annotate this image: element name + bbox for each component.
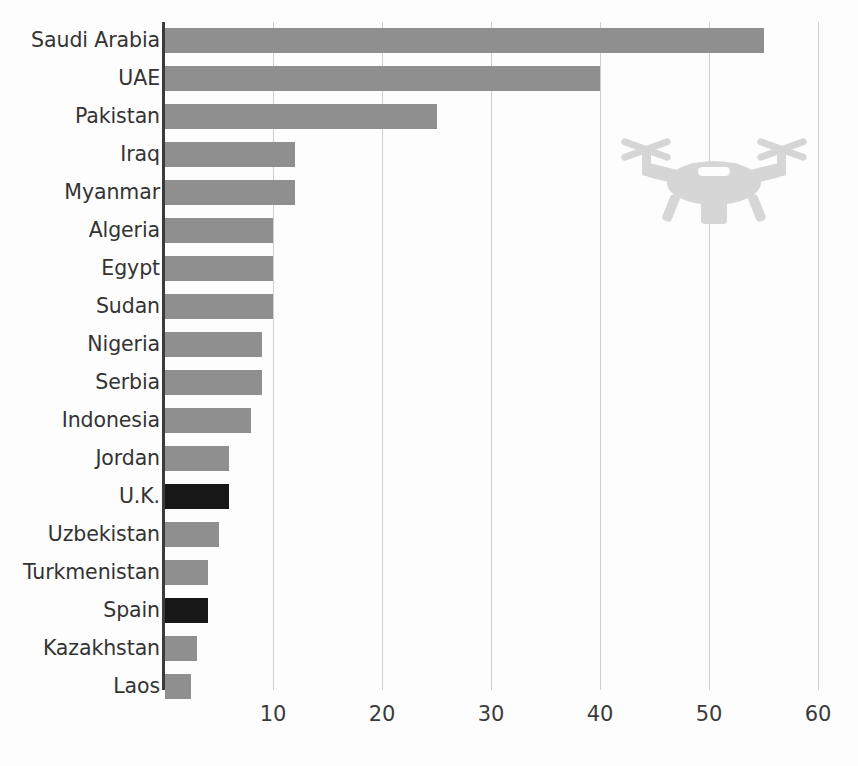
x-tick-label: 60 <box>805 702 832 726</box>
bar <box>165 294 273 319</box>
bar-category-label: Turkmenistan <box>23 560 160 585</box>
bar <box>165 674 191 699</box>
bar <box>165 332 262 357</box>
bar-category-label: Saudi Arabia <box>31 28 160 53</box>
bar <box>165 256 273 281</box>
bar-category-label: Indonesia <box>62 408 160 433</box>
x-tick-label: 30 <box>478 702 505 726</box>
bar <box>165 66 600 91</box>
bar <box>165 218 273 243</box>
bar-category-label: Serbia <box>95 370 160 395</box>
bar <box>165 408 251 433</box>
bar <box>165 522 219 547</box>
bar <box>165 598 208 623</box>
bar-category-label: Pakistan <box>75 104 160 129</box>
bar <box>165 484 229 509</box>
bar-row: Saudi Arabia <box>0 28 858 66</box>
bar-category-label: Laos <box>113 674 160 699</box>
x-tick-label: 10 <box>260 702 287 726</box>
bar <box>165 446 229 471</box>
bar-row: Nigeria <box>0 332 858 370</box>
bar <box>165 560 208 585</box>
bar-chart: Saudi ArabiaUAEPakistanIraqMyanmarAlgeri… <box>0 0 858 766</box>
bar-category-label: Kazakhstan <box>43 636 160 661</box>
bar-category-label: Iraq <box>120 142 160 167</box>
bar-row: Turkmenistan <box>0 560 858 598</box>
plot-area: Saudi ArabiaUAEPakistanIraqMyanmarAlgeri… <box>0 0 858 766</box>
bar-row: Pakistan <box>0 104 858 142</box>
bar <box>165 142 295 167</box>
bar-row: Sudan <box>0 294 858 332</box>
bar-row: Iraq <box>0 142 858 180</box>
bar-row: Algeria <box>0 218 858 256</box>
bar-row: UAE <box>0 66 858 104</box>
bar-row: Myanmar <box>0 180 858 218</box>
bar <box>165 370 262 395</box>
bar-category-label: Myanmar <box>64 180 160 205</box>
bar-row: Egypt <box>0 256 858 294</box>
x-tick-label: 50 <box>696 702 723 726</box>
bar-row: Serbia <box>0 370 858 408</box>
x-tick-label: 20 <box>369 702 396 726</box>
bar-category-label: Algeria <box>89 218 160 243</box>
bar <box>165 28 764 53</box>
x-axis-tick-labels: 102030405060 <box>0 702 858 742</box>
bar <box>165 180 295 205</box>
bar-row: U.K. <box>0 484 858 522</box>
bar-row: Indonesia <box>0 408 858 446</box>
bar-category-label: UAE <box>118 66 160 91</box>
bar-category-label: Jordan <box>95 446 160 471</box>
bar-rows: Saudi ArabiaUAEPakistanIraqMyanmarAlgeri… <box>0 28 858 712</box>
bar-row: Kazakhstan <box>0 636 858 674</box>
bar-category-label: Sudan <box>96 294 160 319</box>
bar-row: Spain <box>0 598 858 636</box>
x-tick-label: 40 <box>587 702 614 726</box>
bar-row: Jordan <box>0 446 858 484</box>
bar-row: Uzbekistan <box>0 522 858 560</box>
bar <box>165 104 437 129</box>
bar-category-label: Egypt <box>101 256 160 281</box>
bar-category-label: U.K. <box>119 484 160 509</box>
bar-category-label: Nigeria <box>87 332 160 357</box>
bar-category-label: Spain <box>103 598 160 623</box>
bar <box>165 636 197 661</box>
bar-category-label: Uzbekistan <box>48 522 160 547</box>
